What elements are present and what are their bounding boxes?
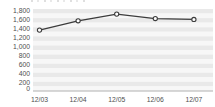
data-point-marker xyxy=(37,28,41,32)
grid-band xyxy=(33,45,213,50)
grid-band xyxy=(33,86,213,91)
grid-band xyxy=(33,73,213,78)
data-point-marker xyxy=(153,16,157,20)
y-tick-label: 1,800 xyxy=(13,7,30,14)
grid-band xyxy=(33,64,213,69)
grid-band xyxy=(33,68,213,73)
y-tick-label: 400 xyxy=(19,70,31,77)
data-point-marker xyxy=(192,17,196,21)
data-point-marker xyxy=(76,19,80,23)
y-tick-label: 0 xyxy=(26,85,30,92)
grid-band xyxy=(33,41,213,46)
x-tick-label: 12/03 xyxy=(31,96,48,103)
x-tick-label: 12/05 xyxy=(108,96,125,103)
grid-band xyxy=(33,59,213,64)
grid-band xyxy=(33,32,213,37)
x-tick-label: 12/06 xyxy=(147,96,164,103)
y-tick-label: 1,000 xyxy=(13,43,30,50)
grid-band xyxy=(33,55,213,60)
chart-canvas: 1,8001,6001,4001,2001,000800600400200012… xyxy=(0,0,215,107)
x-tick-label: 12/07 xyxy=(185,96,202,103)
grid-band xyxy=(33,50,213,55)
grid-band xyxy=(33,77,213,82)
cropped-title-remnant xyxy=(31,0,89,2)
grid-band xyxy=(33,27,213,32)
line-chart: 1,8001,6001,4001,2001,000800600400200012… xyxy=(0,0,215,107)
y-tick-label: 1,400 xyxy=(13,25,30,32)
grid-band xyxy=(33,82,213,87)
y-tick-label: 800 xyxy=(19,52,31,59)
y-tick-label: 1,200 xyxy=(13,34,30,41)
x-tick-label: 12/04 xyxy=(70,96,87,103)
y-tick-label: 1,600 xyxy=(13,16,30,23)
grid-band xyxy=(33,36,213,41)
grid-band xyxy=(33,9,213,14)
data-point-marker xyxy=(115,12,119,16)
y-tick-label: 600 xyxy=(19,61,31,68)
